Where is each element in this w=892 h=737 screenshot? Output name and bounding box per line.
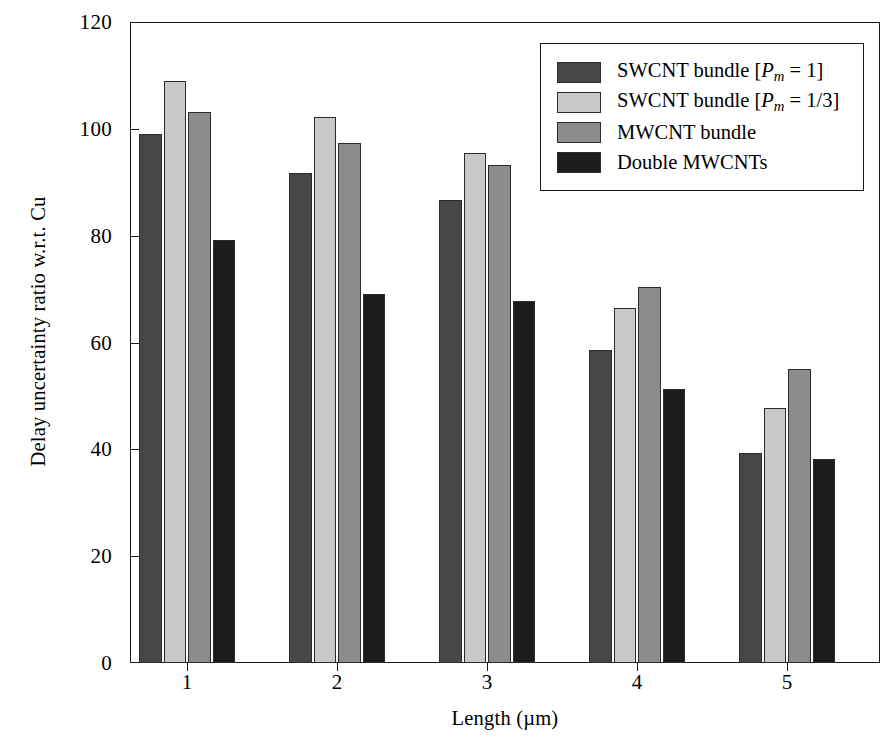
bar [464, 153, 487, 663]
bar [764, 408, 787, 663]
y-axis-title: Delay uncertainty ratio w.r.t. Cu [27, 32, 50, 632]
bar [813, 459, 836, 663]
legend-label: SWCNT bundle [Pm = 1] [617, 60, 823, 83]
bar [488, 165, 511, 663]
legend-label: Double MWCNTs [617, 152, 768, 173]
y-tick-label: 40 [90, 439, 112, 460]
bar [363, 294, 386, 663]
x-axis-title: Length (µm) [130, 707, 880, 730]
legend-swatch [557, 122, 601, 143]
legend-item: SWCNT bundle [Pm = 1] [557, 57, 849, 87]
x-tick-label: 3 [482, 672, 493, 693]
bar [213, 240, 236, 663]
y-tick-label: 120 [80, 12, 112, 33]
y-tick-label: 100 [80, 118, 112, 139]
y-tick-mark [130, 129, 139, 130]
legend-label: MWCNT bundle [617, 122, 756, 143]
bar [338, 143, 361, 663]
legend-swatch [557, 62, 601, 83]
y-tick-mark [130, 449, 139, 450]
x-tick-label: 1 [182, 672, 193, 693]
y-tick-mark [130, 236, 139, 237]
y-tick-label: 80 [90, 225, 112, 246]
legend-item: SWCNT bundle [Pm = 1/3] [557, 87, 849, 117]
bar-chart-figure: 020406080100120 Delay uncertainty ratio … [0, 0, 892, 737]
bar [289, 173, 312, 663]
chart-legend: SWCNT bundle [Pm = 1]SWCNT bundle [Pm = … [540, 43, 864, 191]
y-tick-mark [130, 556, 139, 557]
bar [663, 389, 686, 663]
legend-swatch [557, 152, 601, 173]
y-tick-label: 0 [101, 653, 112, 674]
bar [188, 112, 211, 663]
bar [638, 287, 661, 663]
x-tick-label: 2 [332, 672, 343, 693]
y-axis-tick-labels: 020406080100120 [0, 22, 122, 663]
bar [739, 453, 762, 663]
bar [439, 200, 462, 663]
bar [314, 117, 337, 663]
bar [589, 350, 612, 663]
legend-item: MWCNT bundle [557, 117, 849, 147]
y-tick-mark [130, 343, 139, 344]
legend-swatch [557, 92, 601, 113]
y-tick-label: 60 [90, 332, 112, 353]
bar [164, 81, 187, 663]
bar [788, 369, 811, 663]
bar [139, 134, 162, 663]
bar [614, 308, 637, 663]
x-tick-label: 4 [632, 672, 643, 693]
x-tick-label: 5 [782, 672, 793, 693]
bar [513, 301, 536, 663]
legend-item: Double MWCNTs [557, 147, 849, 177]
legend-label: SWCNT bundle [Pm = 1/3] [617, 90, 839, 113]
y-tick-label: 20 [90, 546, 112, 567]
